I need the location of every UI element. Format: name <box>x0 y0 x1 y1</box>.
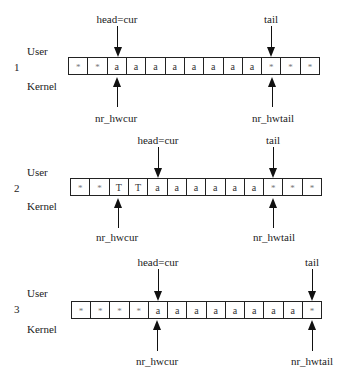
slot: * <box>303 179 321 195</box>
slot: a <box>245 302 264 318</box>
user-label: User <box>27 166 48 178</box>
ring-state-3: head=cur tail User 3 Kernel * * * * a a … <box>0 250 342 375</box>
slot: * <box>262 58 281 74</box>
kernel-label: Kernel <box>27 80 57 92</box>
slot: * <box>90 179 109 195</box>
kernel-label: Kernel <box>27 323 57 335</box>
slot: * <box>88 58 107 74</box>
slot: * <box>91 302 110 318</box>
ring-state-2: head=cur tail User 2 Kernel * * T T a a … <box>0 125 342 250</box>
slot: a <box>226 302 245 318</box>
head-cur-label: head=cur <box>137 134 178 146</box>
slot: a <box>108 58 127 74</box>
row-number: 3 <box>14 303 20 315</box>
slot: * <box>110 302 129 318</box>
head-cur-label: head=cur <box>96 13 137 25</box>
tail-label: tail <box>266 134 280 146</box>
slot: * <box>283 179 302 195</box>
head-cur-label: head=cur <box>137 256 178 268</box>
slot: * <box>72 302 91 318</box>
kernel-label: Kernel <box>27 200 57 212</box>
slot: a <box>243 58 262 74</box>
user-label: User <box>27 287 48 299</box>
slot: a <box>187 302 206 318</box>
slot: a <box>207 302 226 318</box>
slot: a <box>185 58 204 74</box>
slot: * <box>130 302 149 318</box>
slot: a <box>168 302 187 318</box>
slot: a <box>204 58 223 74</box>
slot: * <box>71 179 90 195</box>
slot: * <box>301 58 319 74</box>
slot: a <box>146 58 165 74</box>
slot: * <box>69 58 88 74</box>
slot: T <box>129 179 148 195</box>
slot: a <box>226 179 245 195</box>
ring-buffer: * * a a a a a a a a * * * <box>68 57 320 75</box>
slot: a <box>149 302 168 318</box>
row-number: 1 <box>14 61 20 73</box>
slot: a <box>206 179 225 195</box>
nr-hwcur-label: nr_hwcur <box>96 231 138 243</box>
slot: a <box>127 58 146 74</box>
slot: a <box>284 302 303 318</box>
nr-hwtail-label: nr_hwtail <box>253 231 295 243</box>
slot: a <box>224 58 243 74</box>
slot: a <box>187 179 206 195</box>
nr-hwtail-label: nr_hwtail <box>252 112 294 124</box>
slot: * <box>281 58 300 74</box>
tail-label: tail <box>264 13 278 25</box>
slot: T <box>110 179 129 195</box>
row-number: 2 <box>14 182 20 194</box>
slot: * <box>303 302 321 318</box>
slot: a <box>148 179 167 195</box>
ring-buffer: * * * * a a a a a a a a * <box>71 301 322 319</box>
slot: a <box>245 179 264 195</box>
slot: a <box>264 302 283 318</box>
ring-buffer: * * T T a a a a a a * * * <box>70 178 322 196</box>
slot: * <box>264 179 283 195</box>
slot: a <box>168 179 187 195</box>
user-label: User <box>27 45 48 57</box>
tail-label: tail <box>305 256 319 268</box>
nr-hwcur-label: nr_hwcur <box>136 355 178 367</box>
slot: a <box>166 58 185 74</box>
nr-hwtail-label: nr_hwtail <box>291 355 333 367</box>
nr-hwcur-label: nr_hwcur <box>95 112 137 124</box>
ring-state-1: head=cur tail User 1 Kernel * * a a a a … <box>0 0 342 125</box>
